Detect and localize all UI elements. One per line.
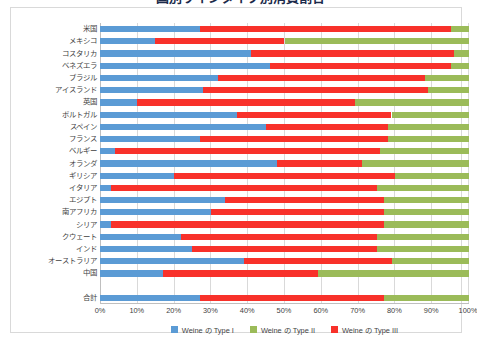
- bar-segment: [285, 38, 470, 44]
- legend-label: Weine の Type II: [261, 324, 315, 335]
- stacked-bar: [100, 295, 469, 301]
- category-label: 南アフリカ: [25, 208, 97, 215]
- category-label: ギリシア: [25, 172, 97, 179]
- bar-segment: [192, 246, 377, 252]
- plot-area: [100, 23, 469, 304]
- table-row: [100, 87, 469, 93]
- bar-segment: [392, 112, 469, 118]
- bar-segment: [100, 26, 200, 32]
- bar-segment: [428, 87, 469, 93]
- category-label: フランス: [25, 135, 97, 142]
- category-label: ブラジル: [25, 74, 97, 81]
- stacked-bar: [100, 99, 469, 105]
- bar-segment: [355, 99, 469, 105]
- bar-segment: [454, 50, 469, 56]
- x-tick-label: 50%: [277, 306, 292, 315]
- bar-segment: [388, 136, 469, 142]
- table-row: [100, 136, 469, 142]
- legend-label: Weine の Type I: [182, 324, 234, 335]
- bar-segment: [111, 221, 384, 227]
- bar-segment: [100, 221, 111, 227]
- bar-segment: [266, 124, 388, 130]
- chart-legend: Weine の Type IWeine の Type IIWeine の Typ…: [100, 322, 469, 336]
- bar-segment: [100, 173, 174, 179]
- category-label: 米国: [25, 25, 97, 32]
- stacked-bar: [100, 75, 469, 81]
- table-row: [100, 185, 469, 191]
- table-row: [100, 221, 469, 227]
- table-row: [100, 234, 469, 240]
- x-tick-label: 60%: [313, 306, 328, 315]
- bar-segment: [251, 50, 454, 56]
- stacked-bar: [100, 148, 469, 154]
- bar-segment: [137, 99, 355, 105]
- x-tick-label: 100%: [459, 306, 477, 315]
- category-label: アイスランド: [25, 86, 97, 93]
- stacked-bar: [100, 234, 469, 240]
- stacked-bar: [100, 185, 469, 191]
- stacked-bar: [100, 124, 469, 130]
- bar-segment: [100, 112, 237, 118]
- table-row: [100, 26, 469, 32]
- category-label: ポルトガル: [25, 111, 97, 118]
- category-label: インド: [25, 245, 97, 252]
- bar-segment: [155, 38, 284, 44]
- bar-segment: [384, 209, 469, 215]
- table-row: [100, 124, 469, 130]
- x-tick-label: 70%: [350, 306, 365, 315]
- bar-segment: [100, 87, 203, 93]
- bar-segment: [203, 87, 428, 93]
- table-row: [100, 270, 469, 276]
- x-tick-label: 40%: [240, 306, 255, 315]
- stacked-bar: [100, 112, 469, 118]
- stacked-bar: [100, 258, 469, 264]
- table-row: [100, 173, 469, 179]
- stacked-bar: [100, 270, 469, 276]
- bar-segment: [100, 75, 218, 81]
- bar-segment: [200, 26, 451, 32]
- category-label: 中国: [25, 269, 97, 276]
- category-label: エジプト: [25, 196, 97, 203]
- x-tick-label: 10%: [129, 306, 144, 315]
- category-label: メキシコ: [25, 37, 97, 44]
- bar-segment: [388, 124, 469, 130]
- bar-segment: [174, 173, 395, 179]
- category-label: オランダ: [25, 160, 97, 167]
- chart-frame: 米国メキシココスタリカベネズエラブラジルアイスランド英国ポルトガルスペインフラン…: [10, 7, 462, 333]
- legend-item[interactable]: Weine の Type I: [171, 324, 234, 335]
- category-label: クウェート: [25, 233, 97, 240]
- bar-segment: [111, 185, 377, 191]
- bar-segment: [277, 160, 362, 166]
- table-row: [100, 209, 469, 215]
- bar-segment: [380, 148, 469, 154]
- bar-segment: [100, 38, 155, 44]
- category-label: スペイン: [25, 123, 97, 130]
- legend-item[interactable]: Weine の Type III: [331, 324, 398, 335]
- table-row: [100, 197, 469, 203]
- chart-title-text: 国別ワインタイプ別消費割合: [120, 0, 360, 4]
- bar-rows: [100, 23, 469, 304]
- bar-segment: [392, 258, 469, 264]
- bar-segment: [318, 270, 469, 276]
- x-tick-label: 80%: [387, 306, 402, 315]
- legend-swatch: [331, 326, 338, 333]
- bar-segment: [237, 112, 392, 118]
- bar-segment: [100, 295, 200, 301]
- x-tick-label: 90%: [424, 306, 439, 315]
- table-row: [100, 295, 469, 301]
- stacked-bar: [100, 197, 469, 203]
- bar-segment: [377, 246, 469, 252]
- bar-segment: [384, 221, 469, 227]
- bar-segment: [100, 246, 192, 252]
- bar-segment: [100, 258, 244, 264]
- legend-swatch: [250, 326, 257, 333]
- legend-item[interactable]: Weine の Type II: [250, 324, 315, 335]
- bar-segment: [163, 270, 318, 276]
- stacked-bar: [100, 87, 469, 93]
- x-tick-label: 0%: [95, 306, 106, 315]
- bar-segment: [100, 63, 270, 69]
- table-row: [100, 50, 469, 56]
- table-row: [100, 63, 469, 69]
- table-row: [100, 246, 469, 252]
